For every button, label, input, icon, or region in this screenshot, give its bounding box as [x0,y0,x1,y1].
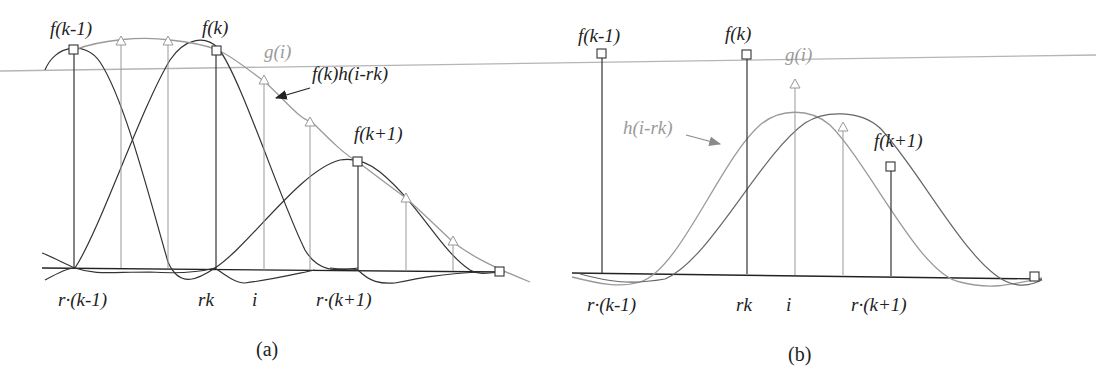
label-g-i-a: g(i) [264,41,291,63]
label-fkh: f(k)h(i-rk) [312,63,388,85]
label-f-k+1-b: f(k+1) [874,130,923,152]
axis-label-r-k+1-b: r·(k+1) [851,294,907,316]
kernel-curve-k+1 [215,159,505,273]
label-g-i-b: g(i) [785,44,812,66]
scan-line [0,55,1096,71]
diagram-canvas: f(k-1) f(k) g(i) f(k)h(i-rk) f(k+1) r·(k… [0,0,1096,377]
axis-label-r-k+1-a: r·(k+1) [316,289,372,311]
label-f-k-a: f(k) [202,17,228,39]
g-stems-a [121,42,453,271]
triangle-markers-b [790,79,848,131]
figure: f(k-1) f(k) g(i) f(k)h(i-rk) f(k+1) r·(k… [0,0,1096,377]
axis-label-i-b: i [786,294,791,315]
square-markers-b [597,49,1039,281]
axis-label-i-a: i [252,289,257,310]
axis-label-r-k-1-a: r·(k-1) [58,289,107,311]
label-f-k-1-a: f(k-1) [50,18,92,40]
caption-a: (a) [256,338,278,361]
h-curve-dark [580,114,1042,285]
h-curve-gray [572,112,1042,286]
panel-b: f(k-1) f(k) g(i) h(i-rk) f(k+1) r·(k-1) … [572,23,1042,366]
square-markers-a [69,45,504,276]
panel-a: f(k-1) f(k) g(i) f(k)h(i-rk) f(k+1) r·(k… [42,17,530,361]
axis-label-r-k-1-b: r·(k-1) [587,294,636,316]
label-f-k-b: f(k) [725,23,751,45]
baseline-b [572,273,1042,279]
kernel-curve-k-1 [45,48,215,279]
axis-label-rk-b: rk [736,294,752,315]
caption-b: (b) [788,343,811,366]
label-f-k-1-b: f(k-1) [578,25,620,47]
axis-label-rk-a: rk [198,289,214,310]
label-h-b: h(i-rk) [623,117,673,139]
arrow-h [686,135,720,144]
arrow-fkh [276,88,310,98]
baseline-a [42,268,504,272]
label-f-k+1-a: f(k+1) [354,123,403,145]
g-curve-a [74,38,530,282]
